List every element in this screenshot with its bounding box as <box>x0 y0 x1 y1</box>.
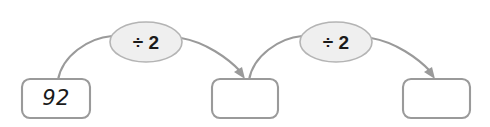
operation-node-2-label: ÷ 2 <box>323 32 349 53</box>
arrow-op1-to-box2 <box>181 38 241 72</box>
arrowhead-into-box3 <box>424 67 435 79</box>
value-box-1-label: 92 <box>42 86 70 110</box>
operation-node-2: ÷ 2 <box>300 22 372 62</box>
value-box-3[interactable] <box>403 79 470 118</box>
arrow-op2-to-box3 <box>371 38 431 72</box>
flow-canvas: 92 ÷ 2 ÷ 2 <box>0 0 490 127</box>
arrow-box1-to-op1 <box>58 36 112 80</box>
arrowhead-into-box2 <box>234 67 245 79</box>
operation-node-1: ÷ 2 <box>110 22 182 62</box>
operation-node-1-label: ÷ 2 <box>133 32 159 53</box>
arrow-box2-to-op2 <box>249 36 302 80</box>
function-machine-diagram: 92 ÷ 2 ÷ 2 <box>0 0 490 127</box>
value-box-3-rect <box>403 79 470 118</box>
value-box-1[interactable]: 92 <box>22 79 90 118</box>
value-box-2[interactable] <box>212 79 278 118</box>
value-box-2-rect <box>212 79 278 118</box>
